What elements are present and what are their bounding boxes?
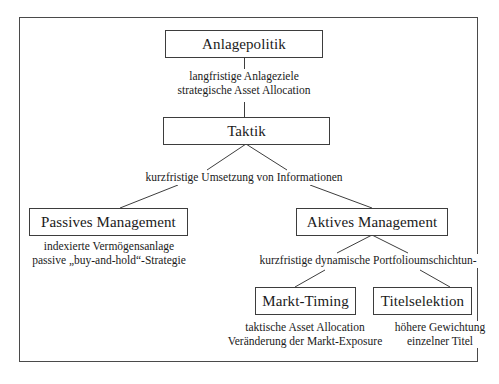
node-taktik-label: Taktik (227, 123, 266, 140)
node-passives-management[interactable]: Passives Management (29, 208, 188, 236)
portfolio-management-diagram: Anlagepolitik langfristige Anlageziele s… (0, 0, 499, 384)
node-passives-management-label: Passives Management (41, 214, 176, 231)
caption-line-2: einzelner Titel (385, 335, 495, 349)
caption-line-1: indexierte Vermögensanlage (23, 240, 195, 254)
caption-line-1: taktische Asset Allocation (215, 321, 395, 335)
caption-aktives-branch: kurzfristige dynamische Portfolioumschic… (248, 254, 488, 268)
caption-line-2: Veränderung der Markt-Exposure (215, 335, 395, 349)
node-titelselektion-label: Titelselektion (381, 293, 464, 310)
caption-line-2: passive „buy-and-hold“-Strategie (23, 254, 195, 268)
caption-passives-detail: indexierte Vermögensanlage passive „buy-… (23, 240, 195, 267)
node-titelselektion[interactable]: Titelselektion (373, 287, 472, 315)
node-markt-timing-label: Markt-Timing (262, 293, 349, 310)
caption-taktik-branch: kurzfristige Umsetzung von Informationen (124, 171, 364, 185)
caption-line-1: langfristige Anlageziele (144, 70, 344, 84)
caption-line-1: kurzfristige Umsetzung von Informationen (124, 171, 364, 185)
caption-titelselektion-detail: höhere Gewichtung einzelner Titel (385, 321, 495, 348)
node-taktik[interactable]: Taktik (163, 117, 330, 145)
node-aktives-management[interactable]: Aktives Management (296, 208, 448, 236)
node-aktives-management-label: Aktives Management (307, 214, 438, 231)
caption-markt-timing-detail: taktische Asset Allocation Veränderung d… (215, 321, 395, 348)
node-markt-timing[interactable]: Markt-Timing (255, 287, 356, 315)
caption-line-2: strategische Asset Allocation (144, 84, 344, 98)
caption-anlagepolitik-taktik: langfristige Anlageziele strategische As… (144, 70, 344, 97)
caption-line-1: kurzfristige dynamische Portfolioumschic… (248, 254, 488, 268)
caption-line-1: höhere Gewichtung (385, 321, 495, 335)
node-anlagepolitik[interactable]: Anlagepolitik (165, 30, 323, 58)
node-anlagepolitik-label: Anlagepolitik (202, 36, 286, 53)
